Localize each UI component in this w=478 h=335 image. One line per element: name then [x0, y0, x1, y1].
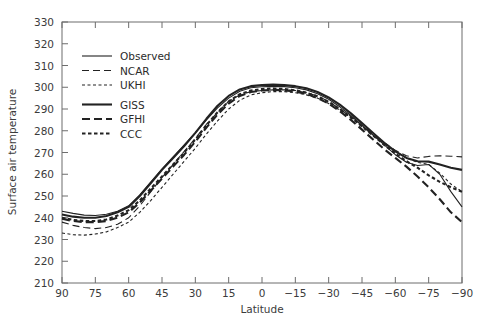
x-tick-label: 15: [222, 287, 235, 299]
y-tick-label: 210: [34, 277, 54, 289]
y-tick-label: 330: [34, 16, 54, 28]
x-tick-label: 90: [55, 287, 68, 299]
y-tick-label: 320: [34, 38, 54, 50]
y-tick-label: 280: [34, 125, 54, 137]
x-tick-label: −15: [284, 287, 306, 299]
x-tick-label: 60: [122, 287, 135, 299]
y-tick-label: 290: [34, 103, 54, 115]
legend-label-giss: GISS: [120, 99, 145, 111]
y-axis-tick-labels: 210220230240250260270280290300310320330: [34, 16, 54, 289]
x-tick-label: −60: [384, 287, 406, 299]
legend-label-gfhi: GFHI: [120, 113, 145, 125]
legend-label-ncar: NCAR: [120, 65, 150, 77]
x-tick-label: −45: [351, 287, 373, 299]
y-axis-title: Surface air temperature: [6, 89, 18, 215]
legend-label-observed: Observed: [120, 50, 171, 62]
y-tick-label: 310: [34, 60, 54, 72]
y-tick-label: 240: [34, 212, 54, 224]
x-tick-label: 75: [89, 287, 102, 299]
legend-label-ukhi: UKHI: [120, 79, 146, 91]
x-axis-title: Latitude: [240, 303, 283, 315]
y-tick-label: 300: [34, 81, 54, 93]
x-tick-label: 0: [259, 287, 266, 299]
chart-figure: 9075604530150−15−30−45−60−75−90 21022023…: [0, 0, 478, 335]
legend-label-ccc: CCC: [120, 128, 142, 140]
x-tick-label: −90: [451, 287, 473, 299]
surface-air-temperature-line-chart: 9075604530150−15−30−45−60−75−90 21022023…: [0, 0, 478, 335]
y-tick-label: 230: [34, 234, 54, 246]
x-tick-label: 45: [155, 287, 168, 299]
y-tick-label: 220: [34, 255, 54, 267]
chart-legend: ObservedNCARUKHIGISSGFHICCC: [82, 50, 171, 140]
y-tick-label: 260: [34, 168, 54, 180]
y-axis-ticks: [62, 22, 68, 283]
x-axis-tick-labels: 9075604530150−15−30−45−60−75−90: [55, 287, 473, 299]
x-tick-label: −75: [418, 287, 440, 299]
y-tick-label: 270: [34, 147, 54, 159]
x-tick-label: −30: [318, 287, 340, 299]
y-tick-label: 250: [34, 190, 54, 202]
x-tick-label: 30: [189, 287, 202, 299]
